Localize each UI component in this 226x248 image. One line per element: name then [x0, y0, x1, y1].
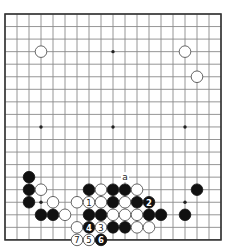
move-number-label: 6	[98, 235, 104, 245]
white-stone-circle	[131, 209, 143, 221]
black-stone-circle	[23, 184, 35, 196]
star-point	[183, 125, 186, 128]
white-stone-circle	[119, 209, 131, 221]
black-stone	[131, 196, 143, 208]
black-stone-circle	[107, 196, 119, 208]
black-stone: 4	[83, 222, 95, 234]
black-stone	[119, 184, 131, 196]
black-stone-circle	[131, 196, 143, 208]
black-stone	[179, 209, 191, 221]
black-stone	[83, 209, 95, 221]
star-point	[111, 125, 114, 128]
white-stone	[143, 222, 155, 234]
black-stone	[83, 184, 95, 196]
black-stone-circle	[107, 222, 119, 234]
white-stone	[71, 222, 83, 234]
black-stone	[107, 196, 119, 208]
black-stone	[47, 209, 59, 221]
black-stone	[119, 222, 131, 234]
white-stone: 3	[95, 222, 107, 234]
black-stone-circle	[83, 209, 95, 221]
black-stone	[107, 184, 119, 196]
black-stone-circle	[119, 184, 131, 196]
white-stone-circle	[95, 196, 107, 208]
white-stone: 7	[71, 234, 83, 246]
go-board: 1243756 a	[0, 0, 226, 248]
star-point	[111, 50, 114, 53]
white-stone-circle	[131, 184, 143, 196]
white-stone: 1	[83, 196, 95, 208]
white-stone	[131, 222, 143, 234]
black-stone	[23, 196, 35, 208]
white-stone-circle	[95, 184, 107, 196]
white-stone	[119, 196, 131, 208]
white-stone	[179, 46, 191, 58]
white-stone-circle	[179, 46, 191, 58]
star-point	[39, 201, 42, 204]
white-stone	[131, 209, 143, 221]
white-stone-circle	[71, 222, 83, 234]
white-stone-circle	[35, 46, 47, 58]
point-marker-label: a	[122, 172, 128, 182]
white-stone-circle	[47, 196, 59, 208]
white-stone	[59, 209, 71, 221]
black-stone-circle	[95, 209, 107, 221]
white-stone	[131, 184, 143, 196]
white-stone	[95, 184, 107, 196]
black-stone-circle	[23, 196, 35, 208]
white-stone-circle	[119, 196, 131, 208]
move-number-label: 2	[146, 198, 152, 208]
black-stone-circle	[155, 209, 167, 221]
white-stone: 5	[83, 234, 95, 246]
white-stone-circle	[143, 222, 155, 234]
black-stone	[23, 184, 35, 196]
move-number-label: 7	[74, 235, 79, 245]
black-stone	[155, 209, 167, 221]
white-stone	[35, 46, 47, 58]
black-stone-circle	[119, 222, 131, 234]
white-stone-circle	[191, 71, 203, 83]
star-point	[39, 125, 42, 128]
black-stone-circle	[35, 209, 47, 221]
black-stone: 2	[143, 196, 155, 208]
white-stone	[191, 71, 203, 83]
white-stone	[119, 209, 131, 221]
move-number-label: 3	[98, 223, 103, 233]
move-number-label: 4	[86, 223, 92, 233]
white-stone-circle	[71, 196, 83, 208]
black-stone-circle	[179, 209, 191, 221]
black-stone	[23, 171, 35, 183]
black-stone	[95, 209, 107, 221]
move-number-label: 5	[86, 235, 91, 245]
black-stone-circle	[47, 209, 59, 221]
white-stone-circle	[59, 209, 71, 221]
white-stone-circle	[131, 222, 143, 234]
black-stone-circle	[143, 209, 155, 221]
star-point	[183, 201, 186, 204]
white-stone	[107, 209, 119, 221]
white-stone	[71, 196, 83, 208]
black-stone-circle	[23, 171, 35, 183]
black-stone-circle	[83, 184, 95, 196]
black-stone-circle	[107, 184, 119, 196]
black-stone	[35, 209, 47, 221]
black-stone	[191, 184, 203, 196]
black-stone: 6	[95, 234, 107, 246]
markers-layer: a	[121, 172, 129, 182]
white-stone-circle	[107, 209, 119, 221]
black-stone-circle	[191, 184, 203, 196]
move-number-label: 1	[86, 198, 91, 208]
white-stone-circle	[35, 184, 47, 196]
black-stone	[143, 209, 155, 221]
black-stone	[107, 222, 119, 234]
white-stone	[35, 184, 47, 196]
white-stone	[95, 196, 107, 208]
white-stone	[47, 196, 59, 208]
